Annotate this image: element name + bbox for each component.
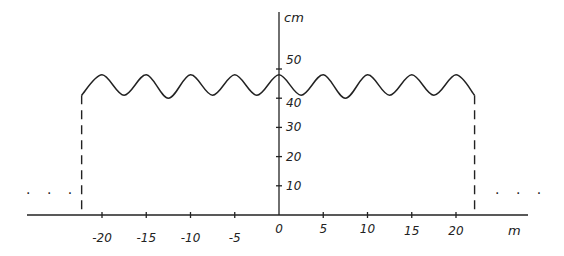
- axes: [27, 12, 528, 215]
- x-tick-label: -15: [136, 231, 156, 245]
- y-tick-label: 40: [286, 96, 302, 110]
- x-tick-label: -10: [181, 231, 201, 245]
- x-tick-label: 15: [404, 224, 419, 238]
- x-tick-label: -5: [229, 231, 241, 245]
- wave-curve: [82, 75, 475, 98]
- left-ellipsis: · · ·: [26, 185, 78, 201]
- x-tick-label: 5: [319, 222, 327, 236]
- x-tick-label: 20: [448, 224, 464, 238]
- y-tick-labels: 1020304050: [286, 53, 302, 193]
- y-axis-unit-label: cm: [284, 10, 304, 25]
- wave-diagram: -20-15-10-505101520 1020304050 cm m · · …: [0, 0, 564, 256]
- y-tick-label: 20: [286, 150, 302, 164]
- x-axis-unit-label: m: [508, 223, 521, 238]
- x-tick-label: -20: [92, 231, 112, 245]
- right-ellipsis: · · ·: [495, 185, 547, 201]
- y-tick-label: 30: [286, 120, 302, 134]
- y-tick-label: 50: [286, 53, 302, 67]
- y-tick-label: 10: [286, 179, 302, 193]
- x-tick-labels: -20-15-10-505101520: [92, 222, 464, 245]
- x-tick-label: 10: [360, 222, 376, 236]
- x-tick-label: 0: [275, 222, 283, 236]
